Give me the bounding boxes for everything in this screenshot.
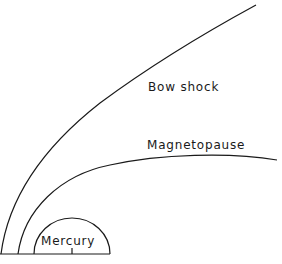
mercury-label: Mercury <box>41 234 95 248</box>
bow-shock-curve <box>1 5 256 254</box>
bow-shock-label: Bow shock <box>148 80 219 94</box>
magnetosphere-diagram: Bow shock Magnetopause Mercury <box>0 0 282 264</box>
magnetopause-label: Magnetopause <box>147 138 245 152</box>
